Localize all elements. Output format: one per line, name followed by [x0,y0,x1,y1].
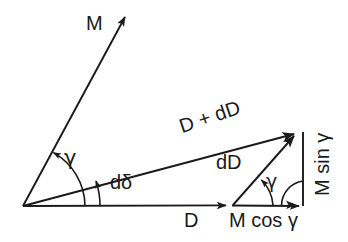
right-angle-arrowhead-icon [286,201,296,210]
dd-label: dD [216,152,242,172]
gamma-left-label: γ [64,148,76,169]
d-base-label: D [184,210,198,230]
vector-diagram-canvas [0,0,348,242]
right-angle-arc [282,181,304,206]
m-vector-label: M [86,13,103,33]
m-sin-gamma-label: M sin γ [312,133,332,196]
d-vector-line [23,205,226,206]
vector-diagram: M γ dδ D + dD dD γ D M cos γ M sin γ [0,0,348,242]
gamma-dd-label: γ [266,172,277,191]
m-cos-gamma-label: M cos γ [229,210,298,230]
d-plus-dd-vector-line [23,134,294,206]
d-delta-label: dδ [110,172,132,192]
